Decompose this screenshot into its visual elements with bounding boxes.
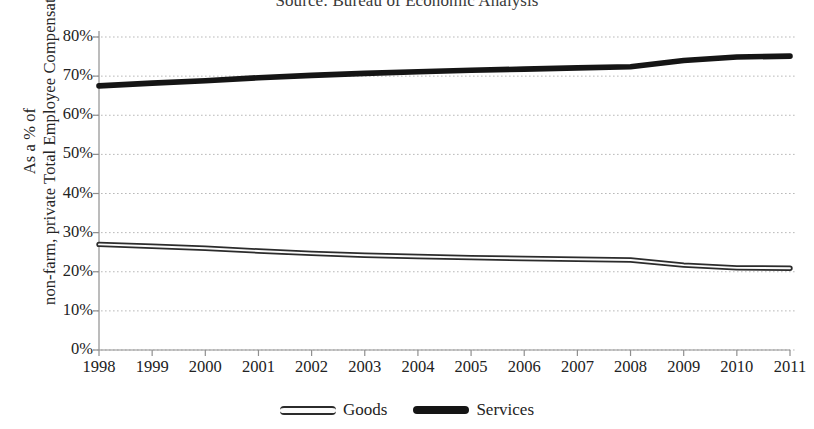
x-axis-tick-labels: 1998199920002001200220032004200520062007… [0, 357, 814, 383]
legend-item-goods[interactable]: Goods [280, 400, 387, 420]
plot-area [99, 37, 790, 350]
x-axis-tick-label: 2011 [755, 357, 814, 377]
y-axis-tick-label: 30% [37, 222, 93, 242]
legend-item-services[interactable]: Services [413, 400, 534, 420]
legend-label-services: Services [476, 400, 534, 420]
chart-container: Source: Bureau of Economic Analysis As a… [0, 0, 814, 429]
legend-swatch-goods [280, 406, 336, 415]
y-axis-tick-label: 40% [37, 183, 93, 203]
chart-source-note: Source: Bureau of Economic Analysis [0, 0, 814, 11]
legend-swatch-services [413, 406, 469, 414]
legend-label-goods: Goods [343, 400, 387, 420]
series-services [99, 56, 790, 86]
chart-legend: GoodsServices [0, 400, 814, 420]
y-axis-tick-label: 50% [37, 143, 93, 163]
y-axis-tick-label: 20% [37, 261, 93, 281]
y-axis-tick-label: 70% [37, 65, 93, 85]
series-goods [99, 244, 790, 268]
series-goods-core [99, 244, 790, 268]
y-axis-tick-label: 0% [37, 339, 93, 359]
y-axis-tick-label: 10% [37, 300, 93, 320]
chart-plot-svg [99, 37, 790, 350]
y-axis-tick-label: 80% [37, 26, 93, 46]
series-services-line [99, 56, 790, 86]
y-axis-tick-label: 60% [37, 104, 93, 124]
